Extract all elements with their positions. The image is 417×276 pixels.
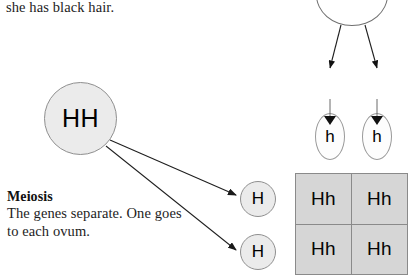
punnett-cell-r1c1: Hh [296, 174, 351, 224]
meiosis-caption-block: Meiosis The genes separate. One goes to … [7, 188, 217, 240]
punnett-square: Hh Hh Hh Hh [295, 173, 408, 275]
parent-genotype-circle-white [316, 0, 388, 26]
ovum-circle-h-1: H [240, 181, 276, 217]
meiosis-heading: Meiosis [7, 188, 217, 205]
meiosis-arrow-to-sperm-1 [330, 25, 341, 68]
punnett-cell-r1c2: Hh [352, 174, 407, 224]
meiosis-body-line-2: to each ovum. [7, 223, 217, 241]
meiosis-arrow-to-sperm-2 [365, 25, 377, 68]
punnett-cell-r2c1: Hh [296, 225, 351, 275]
genetics-diagram-page: she has black hair. HH H H h h Meiosis T… [0, 0, 417, 276]
sperm-cell-h-1: h [315, 113, 345, 160]
ovum-circle-h-2: H [240, 234, 276, 270]
punnett-cell-r2c2: Hh [352, 225, 407, 275]
meiosis-body-line-1: The genes separate. One goes [7, 205, 217, 223]
meiosis-arrow-to-ovum-1 [110, 140, 236, 195]
sperm-cell-h-2: h [362, 113, 392, 160]
parent-genotype-circle-hh: HH [44, 82, 117, 155]
top-caption-text: she has black hair. [6, 0, 114, 16]
